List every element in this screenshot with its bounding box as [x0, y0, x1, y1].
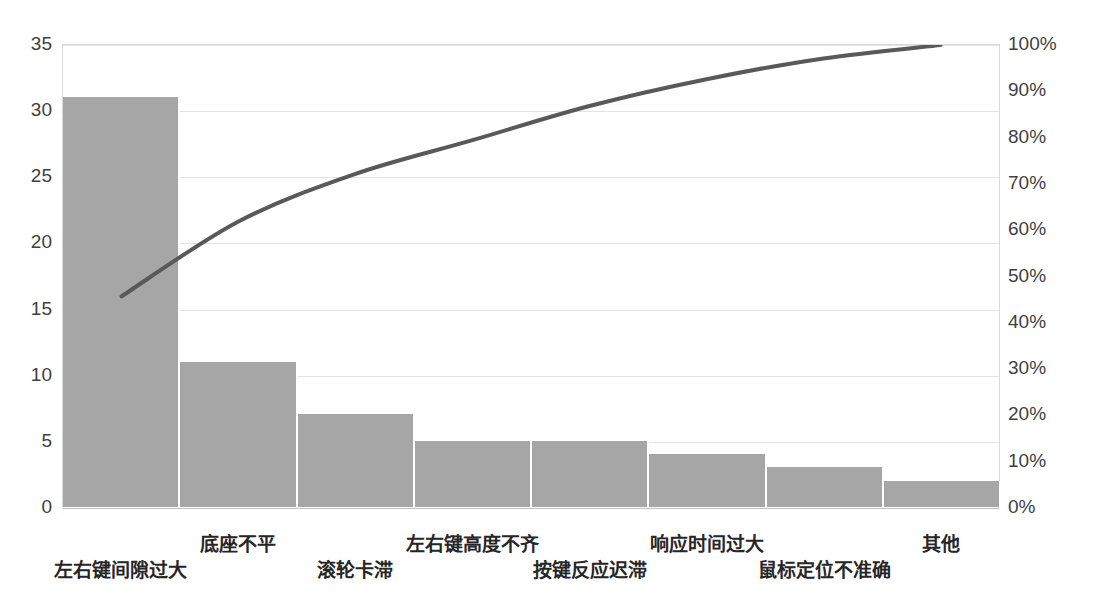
y-axis-right-tick: 0%: [1008, 496, 1113, 518]
bar: [884, 481, 1001, 507]
bar: [298, 414, 415, 507]
bar: [415, 441, 532, 507]
bar-series: [63, 45, 999, 507]
bar: [767, 467, 884, 507]
y-axis-left-tick: 25: [6, 165, 52, 187]
bar: [532, 441, 649, 507]
y-axis-right-tick: 60%: [1008, 218, 1113, 240]
y-axis-left-tick: 0: [6, 496, 52, 518]
x-axis-category-label: 按键反应迟滞: [467, 555, 713, 582]
x-axis-category-label: 其他: [818, 529, 1064, 556]
y-axis-left-tick: 20: [6, 231, 52, 253]
y-axis-left-tick: 30: [6, 99, 52, 121]
bar: [649, 454, 766, 507]
y-axis-right-tick: 10%: [1008, 450, 1113, 472]
y-axis-left: 05101520253035: [0, 0, 52, 595]
y-axis-left-tick: 15: [6, 298, 52, 320]
x-axis-category-label: 左右键高度不齐: [349, 529, 595, 556]
x-axis-category-label: 滚轮卡滞: [232, 555, 478, 582]
y-axis-right-tick: 100%: [1008, 33, 1113, 55]
x-axis-category-label: 响应时间过大: [584, 529, 830, 556]
y-axis-right-tick: 30%: [1008, 357, 1113, 379]
bar: [63, 97, 180, 507]
pareto-chart: 05101520253035 0%10%20%30%40%50%60%70%80…: [0, 0, 1119, 595]
y-axis-left-tick: 10: [6, 364, 52, 386]
x-axis-category-labels: 左右键间隙过大底座不平滚轮卡滞左右键高度不齐按键反应迟滞响应时间过大鼠标定位不准…: [62, 507, 1000, 595]
x-axis-category-label: 底座不平: [115, 529, 361, 556]
y-axis-right: 0%10%20%30%40%50%60%70%80%90%100%: [1008, 0, 1119, 595]
y-axis-right-tick: 80%: [1008, 126, 1113, 148]
y-axis-right-tick: 90%: [1008, 79, 1113, 101]
y-axis-right-tick: 50%: [1008, 265, 1113, 287]
y-axis-left-tick: 35: [6, 33, 52, 55]
y-axis-right-tick: 70%: [1008, 172, 1113, 194]
bar: [180, 362, 297, 508]
plot-area: [62, 44, 1000, 507]
x-axis-category-label: 鼠标定位不准确: [701, 555, 947, 582]
y-axis-right-tick: 40%: [1008, 311, 1113, 333]
x-axis-category-label: 左右键间隙过大: [0, 555, 244, 582]
y-axis-right-tick: 20%: [1008, 403, 1113, 425]
y-axis-left-tick: 5: [6, 430, 52, 452]
